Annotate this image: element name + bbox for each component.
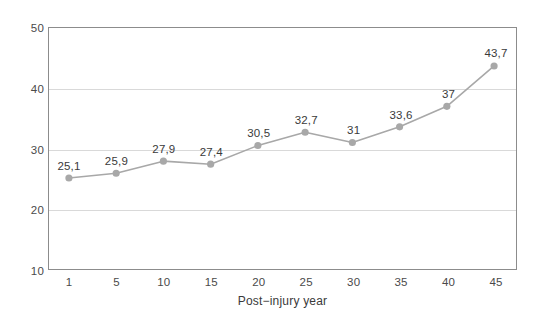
x-tick-label-35: 35 [395,276,408,288]
x-tick-label-1: 1 [66,276,73,288]
data-point-marker [491,62,498,69]
y-tick-label-40: 40 [31,83,44,95]
y-tick-label-10: 10 [31,265,44,277]
x-tick-label-15: 15 [205,276,218,288]
data-point-marker [349,139,356,146]
data-point-label: 25,9 [105,155,128,167]
plot-area: 1020304050 151015202530354045 25,125,927… [48,27,517,270]
data-point-label: 27,9 [152,143,175,155]
x-tick-label-10: 10 [157,276,170,288]
x-tick-label-45: 45 [489,276,502,288]
data-point-marker [396,123,403,130]
data-series [49,28,516,269]
data-point-marker [443,103,450,110]
data-point-marker [160,158,167,165]
data-point-label: 33,6 [390,109,413,121]
x-tick-label-5: 5 [113,276,120,288]
data-point-label: 30,5 [247,127,270,139]
data-point-label: 32,7 [295,114,318,126]
x-axis-title: Post−injury year [48,294,517,308]
data-point-marker [65,174,72,181]
series-markers [65,62,497,181]
x-tick-label-30: 30 [347,276,360,288]
series-line [69,66,494,178]
x-tick-label-25: 25 [300,276,313,288]
data-point-label: 31 [347,124,360,136]
y-tick-label-30: 30 [31,144,44,156]
y-tick-label-50: 50 [31,22,44,34]
x-tick-label-20: 20 [252,276,265,288]
chart-figure: 1020304050 151015202530354045 25,125,927… [0,0,549,326]
x-tick-label-40: 40 [442,276,455,288]
data-point-label: 37 [442,88,455,100]
data-point-label: 43,7 [484,47,507,59]
data-point-marker [254,142,261,149]
data-point-marker [302,129,309,136]
data-point-marker [113,170,120,177]
y-tick-label-20: 20 [31,204,44,216]
data-point-label: 25,1 [57,160,80,172]
data-point-label: 27,4 [200,146,223,158]
data-point-marker [207,161,214,168]
